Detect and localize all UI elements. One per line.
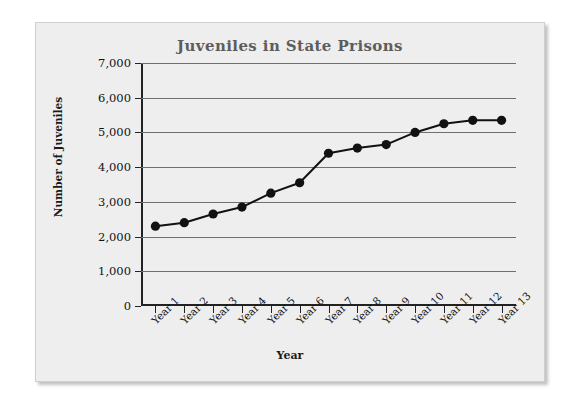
data-point-marker: [266, 189, 275, 198]
plot-area: 7,0006,0005,0004,0003,0002,0001,0000 Yea…: [141, 63, 516, 306]
data-series-juveniles: [141, 63, 516, 306]
data-point-marker: [295, 178, 304, 187]
data-point-marker: [410, 128, 419, 137]
y-axis-tick-label: 3,000: [98, 195, 131, 209]
data-point-marker: [382, 140, 391, 149]
y-axis-tick-label: 0: [124, 299, 131, 313]
chart-title: Juveniles in State Prisons: [36, 37, 544, 55]
data-point-marker: [151, 222, 160, 231]
y-axis-tick-label: 7,000: [98, 56, 131, 70]
y-axis-tick-label: 1,000: [98, 264, 131, 278]
x-axis-title: Year: [36, 349, 544, 362]
y-axis-tick-label: 4,000: [98, 160, 131, 174]
data-point-marker: [324, 149, 333, 158]
data-point-marker: [468, 116, 477, 125]
y-axis-tick-label: 5,000: [98, 125, 131, 139]
data-point-marker: [180, 218, 189, 227]
y-axis-tick: [135, 306, 141, 307]
data-point-marker: [439, 119, 448, 128]
data-point-marker: [353, 143, 362, 152]
data-point-marker: [237, 202, 246, 211]
y-axis-title: Number of Juveniles: [52, 77, 64, 237]
data-point-marker: [497, 116, 506, 125]
data-point-marker: [209, 209, 218, 218]
y-axis-tick-label: 2,000: [98, 230, 131, 244]
series-line: [155, 120, 501, 226]
y-axis-tick-label: 6,000: [98, 91, 131, 105]
figure-card: Juveniles in State Prisons Number of Juv…: [35, 22, 545, 382]
